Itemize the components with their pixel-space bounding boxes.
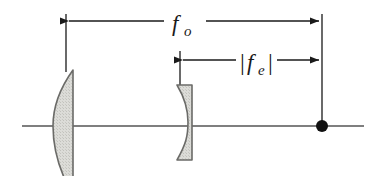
fe-label-subscript: e bbox=[258, 62, 265, 78]
optical-diagram-figure: f o | f e | bbox=[0, 0, 376, 176]
fe-close-bar: | bbox=[268, 49, 273, 75]
common-focal-point bbox=[316, 120, 328, 132]
fo-label-subscript: o bbox=[184, 23, 192, 39]
fe-label-main: f bbox=[247, 50, 257, 75]
objective-lens bbox=[53, 70, 73, 176]
fo-label-main: f bbox=[172, 11, 182, 36]
objective-focal-length-dimension: f o bbox=[69, 11, 319, 39]
eyepiece-lens bbox=[177, 85, 192, 160]
eyepiece-focal-length-dimension: | f e | bbox=[183, 49, 319, 78]
optical-diagram-canvas: f o | f e | bbox=[0, 0, 376, 176]
fe-open-bar: | bbox=[240, 49, 245, 75]
